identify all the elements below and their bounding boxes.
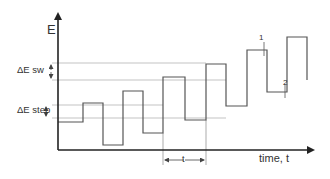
y-axis-label: E [47,22,56,37]
x-axis-label: time, t [259,152,289,164]
delta-e-sw-label: ΔE sw [17,64,44,75]
sample-point-1-label: 1 [259,33,263,42]
sample-point-2-label: 2 [283,78,287,87]
staircase-square-waveform [58,37,307,145]
delta-e-step-label: ΔE step [17,104,50,115]
period-label: t [182,154,185,164]
